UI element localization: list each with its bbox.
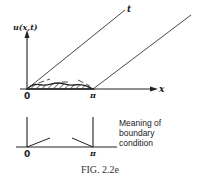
top-tick-0: 0: [24, 91, 30, 101]
note-line-3: condition: [119, 138, 199, 148]
bottom-tick-pi: π: [89, 148, 96, 158]
label-layer: u(x,t) x t 0 π 0 π: [0, 0, 201, 183]
bottom-tick-0: 0: [24, 149, 30, 159]
boundary-condition-note: Meaning of boundary condition: [119, 118, 199, 148]
figure-caption: FIG. 2.2e: [60, 164, 140, 175]
note-line-2: boundary: [119, 128, 199, 138]
u-axis-label: u(x,t): [13, 22, 38, 32]
t-label: t: [127, 4, 132, 14]
note-line-1: Meaning of: [119, 118, 199, 128]
x-axis-label: x: [158, 84, 165, 94]
top-tick-pi: π: [89, 90, 96, 100]
